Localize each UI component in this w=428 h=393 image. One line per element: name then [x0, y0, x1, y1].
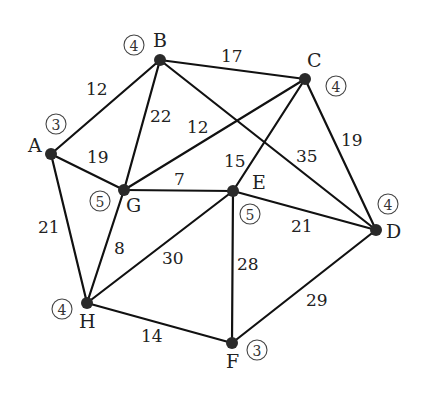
degree-badge-C: 4 — [326, 76, 346, 96]
edge-G-E — [124, 190, 233, 191]
degree-value: 5 — [96, 194, 105, 210]
weighted-graph: 121921172235121519782130282914A3B4C4D4E5… — [0, 0, 428, 393]
node-D — [370, 224, 382, 236]
edge-A-B — [51, 60, 160, 154]
edge-weight-C-E: 15 — [224, 151, 246, 171]
graph-diagram: 121921172235121519782130282914A3B4C4D4E5… — [0, 0, 428, 393]
degree-value: 3 — [52, 117, 61, 133]
edge-weight-C-G: 12 — [187, 117, 209, 137]
node-A — [45, 148, 57, 160]
degree-badge-D: 4 — [378, 194, 398, 214]
node-label-E: E — [252, 171, 266, 193]
node-E — [227, 185, 239, 197]
edge-weight-C-D: 19 — [341, 130, 363, 150]
degree-badge-E: 5 — [240, 204, 260, 224]
edge-weight-B-C: 17 — [221, 46, 243, 66]
degree-value: 5 — [246, 207, 255, 223]
degree-value: 4 — [130, 38, 139, 54]
node-F — [226, 337, 238, 349]
edge-weight-D-F: 29 — [306, 290, 328, 310]
degree-badge-A: 3 — [46, 114, 66, 134]
node-label-C: C — [307, 49, 322, 71]
edge-weight-E-F: 28 — [237, 254, 259, 274]
node-label-A: A — [27, 134, 42, 156]
edge-weight-A-B: 12 — [86, 79, 108, 99]
edge-weight-B-D: 35 — [296, 146, 318, 166]
edge-E-H — [87, 191, 233, 303]
node-label-G: G — [126, 194, 141, 216]
node-C — [299, 73, 311, 85]
edge-D-F — [232, 230, 376, 343]
node-label-F: F — [226, 350, 239, 372]
degree-badge-G: 5 — [90, 191, 110, 211]
edge-weight-H-F: 14 — [141, 326, 163, 346]
edge-weight-G-H: 8 — [114, 238, 125, 258]
node-H — [81, 297, 93, 309]
edge-weight-A-H: 21 — [38, 217, 60, 237]
node-label-H: H — [79, 310, 96, 332]
edge-weight-G-E: 7 — [174, 169, 185, 189]
node-B — [154, 54, 166, 66]
degree-value: 4 — [332, 79, 341, 95]
degree-badge-F: 3 — [247, 340, 267, 360]
node-label-D: D — [386, 220, 401, 242]
edge-E-F — [232, 191, 233, 343]
edge-C-E — [233, 79, 305, 191]
edge-weight-A-G: 19 — [87, 147, 109, 167]
degree-value: 3 — [253, 343, 262, 359]
degree-value: 4 — [384, 197, 393, 213]
degree-value: 4 — [58, 302, 67, 318]
degree-badge-B: 4 — [124, 35, 144, 55]
edge-weight-E-H: 30 — [162, 248, 184, 268]
edge-weight-E-D: 21 — [291, 216, 313, 236]
node-label-B: B — [153, 29, 167, 51]
degree-badge-H: 4 — [52, 299, 72, 319]
edge-weight-B-G: 22 — [150, 106, 172, 126]
